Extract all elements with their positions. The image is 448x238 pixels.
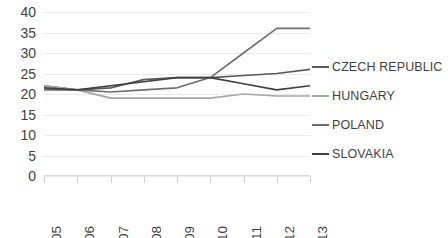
- x-tick: [277, 176, 278, 183]
- x-tick-label: 2005: [50, 226, 64, 238]
- series-line: [44, 28, 310, 92]
- plot-area: [44, 12, 310, 176]
- x-axis-ticks: [44, 176, 310, 184]
- legend-swatch: [312, 66, 329, 68]
- x-tick: [244, 176, 245, 183]
- legend-item[interactable]: CZECH REPUBLIC: [312, 58, 442, 76]
- y-tick-label: 0: [28, 169, 36, 183]
- legend-label: CZECH REPUBLIC: [332, 61, 442, 74]
- x-tick-label: 2013: [316, 226, 330, 238]
- line-chart: 4035302520151050 20052006200720082009201…: [0, 0, 448, 238]
- legend: CZECH REPUBLICHUNGARYPOLANDSLOVAKIA: [312, 58, 448, 170]
- legend-swatch: [312, 153, 329, 155]
- x-tick: [310, 176, 311, 183]
- legend-swatch: [312, 124, 329, 126]
- legend-label: POLAND: [332, 119, 384, 132]
- x-tick: [111, 176, 112, 183]
- x-tick: [77, 176, 78, 183]
- y-tick-label: 10: [20, 128, 36, 142]
- x-tick-label: 2009: [183, 226, 197, 238]
- legend-item[interactable]: POLAND: [312, 116, 384, 134]
- y-tick-label: 40: [20, 5, 36, 19]
- x-tick-label: 2012: [283, 226, 297, 238]
- y-tick-label: 30: [20, 46, 36, 60]
- y-tick-label: 20: [20, 87, 36, 101]
- x-tick-label: 2010: [216, 226, 230, 238]
- y-tick-label: 35: [20, 26, 36, 40]
- y-tick-label: 25: [20, 67, 36, 81]
- series-layer: [44, 12, 310, 176]
- legend-swatch: [312, 95, 329, 97]
- x-tick: [144, 176, 145, 183]
- legend-item[interactable]: SLOVAKIA: [312, 145, 394, 163]
- y-tick-label: 5: [28, 149, 36, 163]
- y-axis: 4035302520151050: [0, 0, 40, 176]
- x-tick-label: 2007: [117, 226, 131, 238]
- legend-label: SLOVAKIA: [332, 148, 394, 161]
- x-tick-label: 2006: [83, 226, 97, 238]
- x-tick: [210, 176, 211, 183]
- legend-label: HUNGARY: [332, 90, 395, 103]
- x-tick-label: 2008: [150, 226, 164, 238]
- y-tick-label: 15: [20, 108, 36, 122]
- legend-item[interactable]: HUNGARY: [312, 87, 395, 105]
- x-tick-label: 2011: [250, 226, 264, 238]
- x-tick: [177, 176, 178, 183]
- series-line: [44, 69, 310, 90]
- x-axis-labels: 200520062007200820092010201120122013: [44, 184, 310, 230]
- x-tick: [44, 176, 45, 183]
